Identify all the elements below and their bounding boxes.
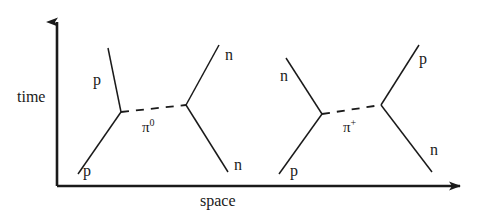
incoming-proton-lower-left-line (279, 114, 322, 174)
feynman-diagram-svg (0, 0, 491, 220)
pi-plus-exchange-diagram (279, 45, 432, 174)
outgoing-neutron-lower-right-line (186, 105, 228, 172)
pi-zero-symbol: π (142, 119, 150, 135)
pi-plus-charge: + (351, 117, 357, 128)
space-axis-label: space (200, 193, 236, 209)
label-incoming-neutron-upper-left: n (280, 68, 288, 84)
figure-canvas: time space p p n n π0 n p p n π+ (0, 0, 491, 220)
label-incoming-proton-lower-left: p (83, 163, 91, 179)
pi-plus-symbol: π (343, 119, 351, 135)
label-pi-plus: π+ (343, 120, 356, 135)
label-incoming-proton-upper-left: p (93, 72, 101, 88)
incoming-proton-upper-left-line (108, 48, 121, 112)
label-outgoing-neutron-lower-right: n (234, 157, 242, 173)
time-axis-label: time (17, 89, 45, 105)
incoming-neutron-upper-left-line (286, 58, 322, 114)
outgoing-proton-upper-right-line (381, 45, 419, 105)
axes-group (57, 22, 460, 186)
outgoing-neutron-lower-right-line (381, 105, 432, 172)
label-outgoing-neutron-lower-right: n (430, 142, 438, 158)
outgoing-neutron-upper-right-line (186, 45, 219, 105)
pi-zero-charge: 0 (150, 117, 155, 128)
label-incoming-proton-lower-left: p (290, 163, 298, 179)
label-pi-zero: π0 (142, 120, 155, 135)
pi-zero-propagator-line (121, 105, 186, 112)
label-outgoing-neutron-upper-right: n (225, 47, 233, 63)
pi-zero-exchange-diagram (78, 45, 228, 174)
pi-plus-propagator-line (322, 105, 381, 114)
label-outgoing-proton-upper-right: p (419, 51, 427, 67)
